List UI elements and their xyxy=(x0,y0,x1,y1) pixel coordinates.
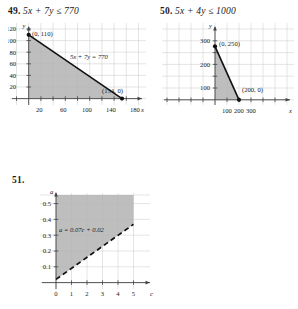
point-intercept-y xyxy=(27,33,31,37)
y-tick-label: 300 xyxy=(200,37,211,44)
x-tick-label: 5 xyxy=(132,290,136,297)
point-intercept-x xyxy=(237,98,241,102)
problem-51-graph: 0 1 2 3 4 5 0.1 0.2 0.3 0.4 0.5 c a a = … xyxy=(26,187,158,305)
x-tick-label: 140 xyxy=(106,106,117,113)
x-tick-label: 60 xyxy=(60,106,67,113)
problem-50-number: 50. xyxy=(160,6,172,16)
point-label-x-intercept: (200, 0) xyxy=(242,86,263,94)
y-tick-label: 60 xyxy=(9,60,16,67)
y-tick-label: 0.2 xyxy=(43,247,51,254)
problem-51-header: 51. xyxy=(12,175,158,185)
y-axis-label: y xyxy=(208,22,212,29)
problem-50-statement: 5x + 4y ≤ 1000 xyxy=(175,6,236,16)
y-tick-label: 100 xyxy=(8,37,17,44)
problem-49: 49. 5x + 7y ≤ 770 xyxy=(8,6,148,119)
problem-49-number: 49. xyxy=(8,6,20,16)
x-tick-label: 1 xyxy=(70,290,73,297)
x-tick-label: 100 xyxy=(222,107,233,114)
problem-51-svg: 0 1 2 3 4 5 0.1 0.2 0.3 0.4 0.5 c a a = … xyxy=(26,187,158,305)
x-tick-label: 0 xyxy=(54,290,58,297)
point-label-y-intercept: (0, 110) xyxy=(32,30,53,38)
x-tick-label: 20 xyxy=(36,106,43,113)
x-tick-label: 100 xyxy=(82,106,93,113)
point-intercept-x xyxy=(120,97,124,101)
x-tick-label: 3 xyxy=(101,290,105,297)
y-tick-label: 120 xyxy=(8,25,17,32)
point-label-y-intercept: (0, 250) xyxy=(219,40,240,48)
y-tick-label: 0.5 xyxy=(43,200,52,207)
y-tick-label: 20 xyxy=(9,83,16,90)
y-tick-label: 80 xyxy=(9,49,16,56)
y-tick-label: 200 xyxy=(200,61,211,68)
problem-50-svg: 100 200 300 100 200 300 x y (0, 250) (20… xyxy=(160,21,296,119)
problem-49-svg: 20 60 100 140 180 20 40 60 80 100 120 x … xyxy=(8,21,148,119)
problem-50: 50. 5x + 4y ≤ 1000 xyxy=(160,6,296,119)
point-intercept-y xyxy=(213,44,217,48)
problem-51: 51. xyxy=(12,175,158,305)
x-axis-label: x xyxy=(288,107,292,114)
x-tick-label: 180 xyxy=(130,106,141,113)
problem-50-graph: 100 200 300 100 200 300 x y (0, 250) (20… xyxy=(160,21,296,119)
x-tick-label: 300 xyxy=(246,107,257,114)
y-tick-label: 40 xyxy=(9,72,16,79)
problem-49-graph: 20 60 100 140 180 20 40 60 80 100 120 x … xyxy=(8,21,148,119)
y-tick-label: 0.3 xyxy=(43,232,52,239)
point-label-x-intercept: (154, 0) xyxy=(102,87,123,95)
boundary-equation-label: 5x + 7y = 770 xyxy=(70,53,109,60)
x-tick-label: 4 xyxy=(116,290,120,297)
x-tick-label: 2 xyxy=(85,290,88,297)
problem-50-header: 50. 5x + 4y ≤ 1000 xyxy=(160,6,296,16)
boundary-equation-label: a = 0.07c + 0.02 xyxy=(59,226,104,233)
problem-51-number: 51. xyxy=(12,175,24,185)
y-axis-label: y xyxy=(22,22,26,29)
problem-49-header: 49. 5x + 7y ≤ 770 xyxy=(8,6,148,16)
y-tick-label: 100 xyxy=(200,84,211,91)
y-tick-label: 0.1 xyxy=(43,263,51,270)
x-axis-label: c xyxy=(150,290,153,297)
x-tick-label: 200 xyxy=(234,107,245,114)
problem-49-statement: 5x + 7y ≤ 770 xyxy=(23,6,79,16)
y-tick-label: 0.4 xyxy=(43,216,52,223)
x-axis-label: x xyxy=(140,106,144,113)
